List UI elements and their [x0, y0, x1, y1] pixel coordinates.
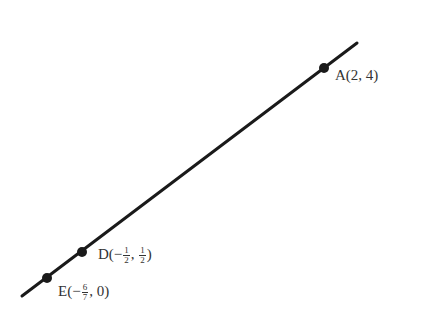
label-d: D(−12, 12) [98, 246, 152, 265]
label-e-close: ) [104, 283, 109, 299]
label-e: E(−67, 0) [58, 283, 109, 302]
label-d-x-fraction: 12 [123, 246, 130, 265]
label-d-y-fraction: 12 [139, 246, 146, 265]
label-a: A(2, 4) [335, 68, 378, 83]
label-d-sep: , [131, 246, 139, 262]
label-d-y-den: 2 [139, 256, 146, 265]
line-ad [22, 43, 357, 296]
label-a-letter: A [335, 67, 346, 83]
label-d-open: (− [109, 246, 122, 262]
label-e-open: (− [67, 283, 80, 299]
label-d-close: ) [147, 246, 152, 262]
label-a-close: ) [373, 67, 378, 83]
label-e-x-fraction: 67 [82, 283, 89, 302]
label-e-sep: , [89, 283, 97, 299]
point-a [319, 63, 329, 73]
point-d [77, 247, 87, 257]
label-e-letter: E [58, 283, 67, 299]
label-a-sep: , [358, 67, 366, 83]
point-e [42, 273, 52, 283]
label-e-x-den: 7 [82, 293, 89, 302]
label-d-x-den: 2 [123, 256, 130, 265]
label-d-letter: D [98, 246, 109, 262]
